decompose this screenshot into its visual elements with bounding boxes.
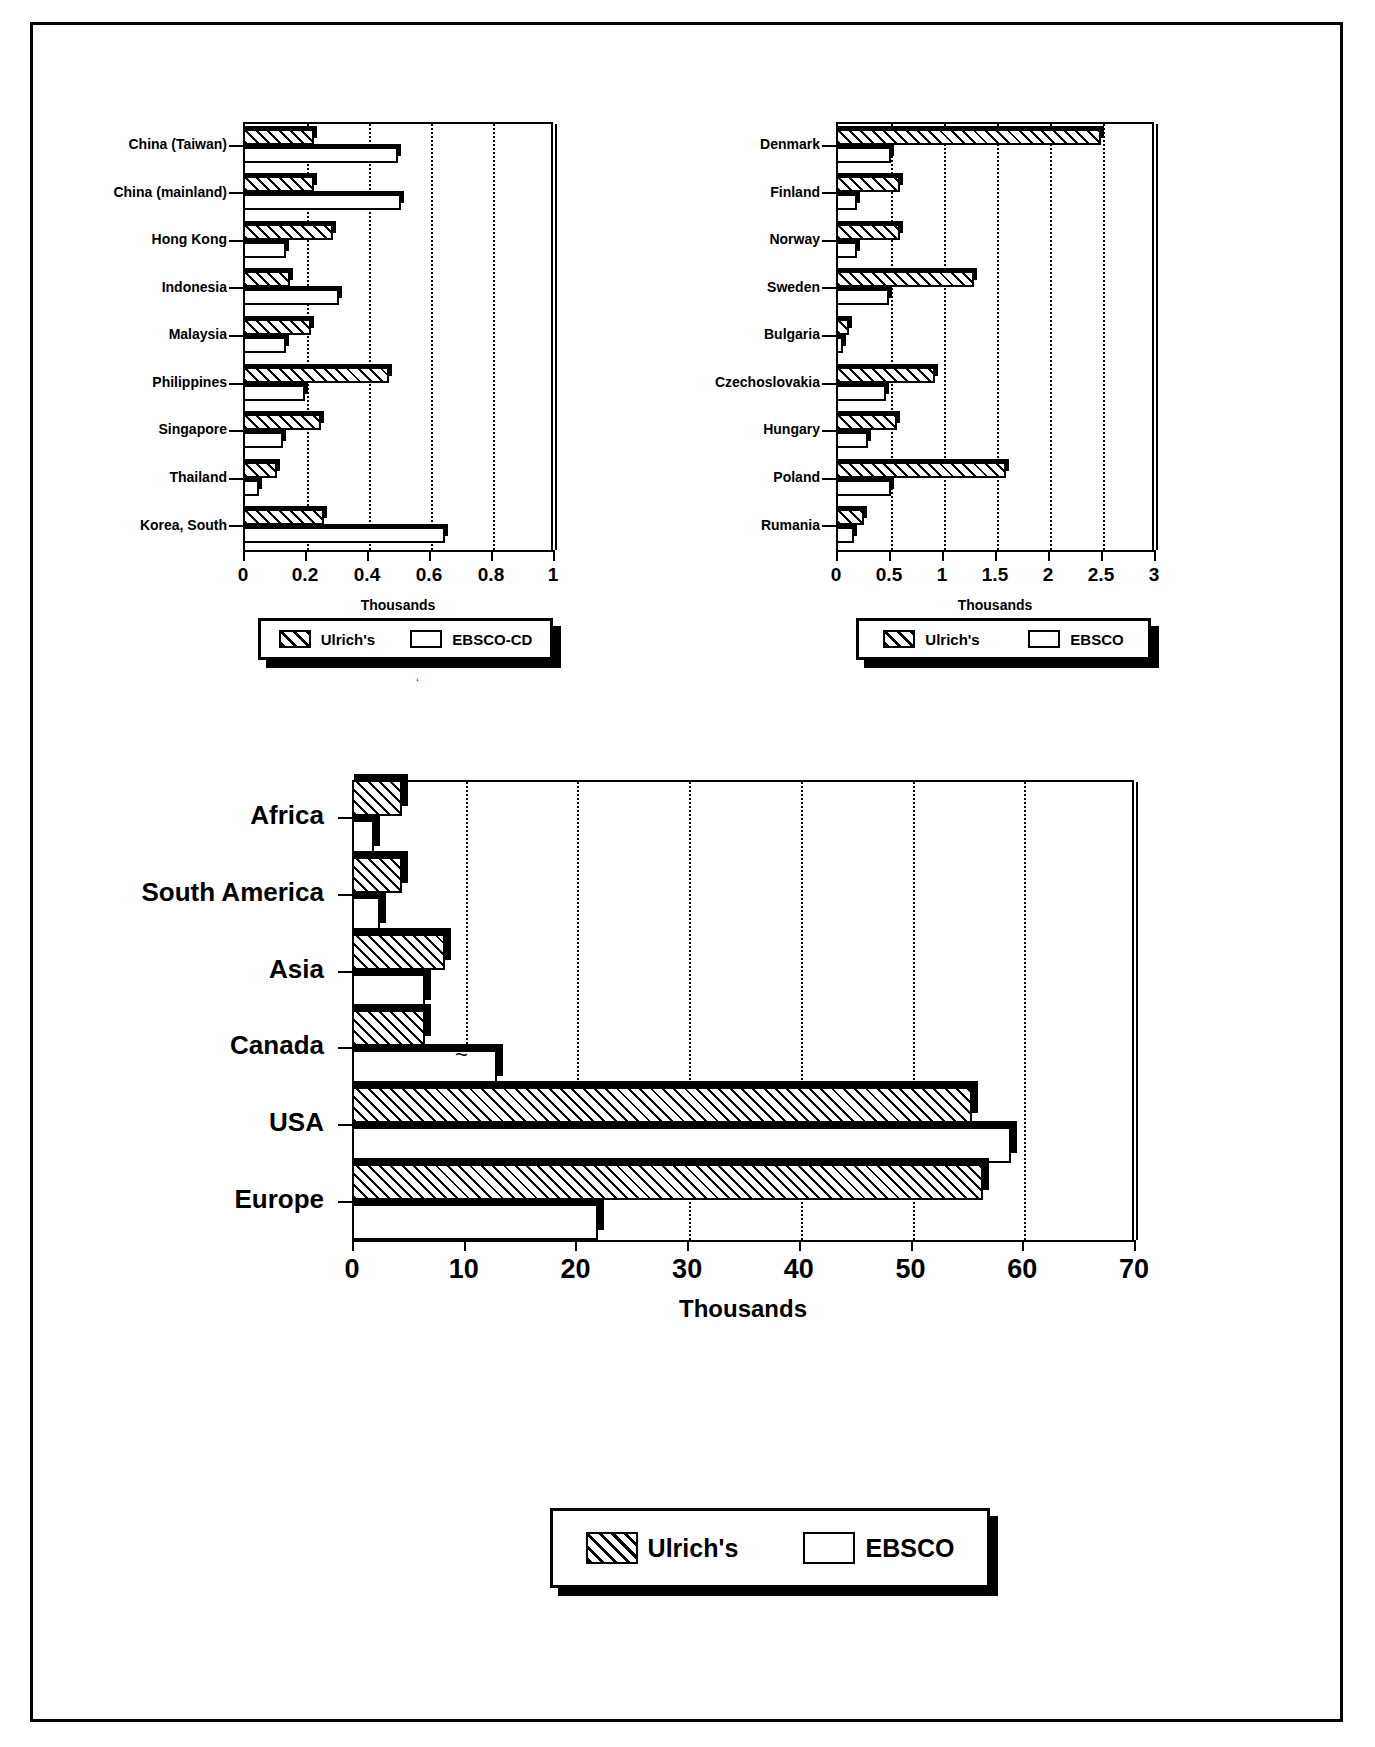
bar-bevel-top <box>354 774 400 782</box>
legend-entry-ebsco: EBSCO <box>803 1532 954 1564</box>
category-tick <box>338 817 354 819</box>
x-tick <box>352 1240 354 1251</box>
bar-bevel-right <box>596 1198 604 1230</box>
x-tick-label: 10 <box>424 1254 504 1285</box>
bar-bevel-top <box>354 1198 596 1206</box>
x-tick-label: 30 <box>647 1254 727 1285</box>
world-chart-legend: Ulrich'sEBSCO <box>550 1508 990 1588</box>
x-tick <box>911 1240 913 1251</box>
bar-bevel-right <box>1009 1121 1017 1153</box>
category-label: Canada <box>64 1032 324 1058</box>
bar-ulrichs <box>352 857 402 893</box>
bar-bevel-right <box>981 1158 989 1190</box>
bar-bevel-top <box>354 891 378 899</box>
bar-bevel-top <box>354 928 443 936</box>
bar-bevel-right <box>400 851 408 883</box>
bar-ulrichs <box>352 1010 425 1046</box>
x-tick-label: 20 <box>535 1254 615 1285</box>
bar-bevel-right <box>423 1004 431 1036</box>
legend-entry-ulrich-s: Ulrich's <box>586 1532 739 1564</box>
category-label: South America <box>64 879 324 905</box>
category-tick <box>338 894 354 896</box>
bar-bevel-right <box>400 774 408 806</box>
category-tick <box>338 971 354 973</box>
x-tick <box>1022 1240 1024 1251</box>
bar-bevel-right <box>378 891 386 923</box>
bar-ulrichs <box>352 780 402 816</box>
bar-bevel-top <box>354 814 372 822</box>
stray-tilde-mark: ~ <box>455 1042 468 1068</box>
x-tick <box>464 1240 466 1251</box>
gridline <box>1136 782 1138 1240</box>
x-tick-label: 0 <box>312 1254 392 1285</box>
gridline <box>1024 782 1026 1240</box>
bar-bevel-right <box>372 814 380 846</box>
legend-swatch-plain-icon <box>803 1532 855 1564</box>
x-tick <box>575 1240 577 1251</box>
bar-bevel-top <box>354 851 400 859</box>
category-tick <box>338 1201 354 1203</box>
bar-bevel-top <box>354 968 423 976</box>
category-label: Africa <box>64 802 324 828</box>
x-tick <box>1134 1240 1136 1251</box>
bar-bevel-top <box>354 1121 1009 1129</box>
bar-bevel-right <box>443 928 451 960</box>
bar-ulrichs <box>352 1164 983 1200</box>
bar-bevel-right <box>423 968 431 1000</box>
bar-ulrichs <box>352 934 445 970</box>
category-tick <box>338 1047 354 1049</box>
bar-ebsco <box>352 1204 598 1240</box>
bar-ulrichs <box>352 1087 972 1123</box>
bar-bevel-top <box>354 1081 970 1089</box>
bar-bevel-top <box>354 1004 423 1012</box>
x-tick <box>799 1240 801 1251</box>
figure-page: 00.20.40.60.81ThousandsChina (Taiwan)Chi… <box>0 0 1375 1747</box>
x-tick-label: 60 <box>982 1254 1062 1285</box>
bar-bevel-top <box>354 1158 981 1166</box>
world-chart: 010203040506070ThousandsAfricaSouth Amer… <box>0 0 1200 900</box>
legend-label: Ulrich's <box>648 1534 739 1563</box>
legend-swatch-hatched-icon <box>586 1532 638 1564</box>
x-tick-label: 50 <box>871 1254 951 1285</box>
category-label: Asia <box>64 956 324 982</box>
bar-bevel-right <box>970 1081 978 1113</box>
category-tick <box>338 1124 354 1126</box>
x-tick <box>687 1240 689 1251</box>
category-label: USA <box>64 1109 324 1135</box>
legend-label: EBSCO <box>865 1534 954 1563</box>
bar-bevel-right <box>495 1044 503 1076</box>
category-label: Europe <box>64 1186 324 1212</box>
world-chart-axis-title: Thousands <box>352 1295 1134 1323</box>
x-tick-label: 70 <box>1094 1254 1174 1285</box>
stray-ink-mark: ʻ <box>416 676 419 691</box>
bar-bevel-top <box>354 1044 495 1052</box>
x-tick-label: 40 <box>759 1254 839 1285</box>
world-chart-x-axis <box>352 1240 1134 1242</box>
